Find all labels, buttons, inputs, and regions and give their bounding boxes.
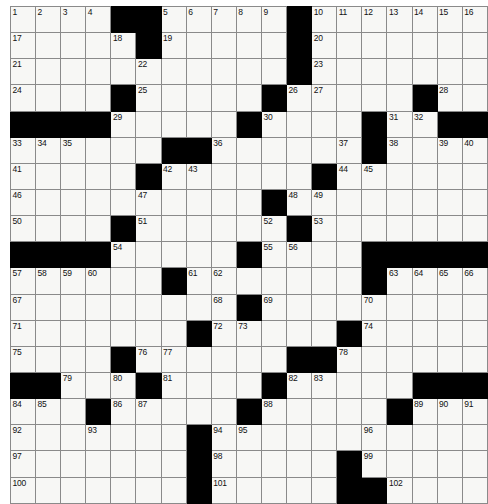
crossword-cell[interactable]: 18 xyxy=(111,33,136,59)
crossword-cell[interactable] xyxy=(111,137,136,163)
crossword-cell[interactable] xyxy=(86,59,111,85)
crossword-cell[interactable] xyxy=(312,320,337,346)
crossword-cell[interactable] xyxy=(36,33,61,59)
crossword-cell[interactable] xyxy=(211,111,236,137)
crossword-cell[interactable]: 82 xyxy=(287,372,312,398)
crossword-cell[interactable]: 35 xyxy=(61,137,86,163)
crossword-cell[interactable] xyxy=(337,33,362,59)
crossword-cell[interactable] xyxy=(287,111,312,137)
crossword-cell[interactable]: 17 xyxy=(11,33,36,59)
crossword-cell[interactable]: 42 xyxy=(161,163,186,189)
crossword-cell[interactable] xyxy=(61,189,86,215)
crossword-cell[interactable] xyxy=(186,216,211,242)
crossword-cell[interactable] xyxy=(287,163,312,189)
crossword-cell[interactable]: 6 xyxy=(186,7,211,33)
crossword-cell[interactable]: 90 xyxy=(437,399,462,425)
crossword-cell[interactable] xyxy=(437,294,462,320)
crossword-cell[interactable] xyxy=(312,268,337,294)
crossword-cell[interactable]: 43 xyxy=(186,163,211,189)
crossword-cell[interactable] xyxy=(36,189,61,215)
crossword-cell[interactable]: 11 xyxy=(337,7,362,33)
crossword-cell[interactable] xyxy=(387,346,412,372)
crossword-cell[interactable] xyxy=(261,425,286,451)
crossword-cell[interactable] xyxy=(161,242,186,268)
crossword-cell[interactable] xyxy=(362,216,387,242)
crossword-cell[interactable] xyxy=(261,451,286,477)
crossword-cell[interactable] xyxy=(161,320,186,346)
crossword-cell[interactable]: 94 xyxy=(211,425,236,451)
crossword-cell[interactable] xyxy=(236,372,261,398)
crossword-cell[interactable] xyxy=(161,189,186,215)
crossword-cell[interactable] xyxy=(86,85,111,111)
crossword-cell[interactable] xyxy=(161,85,186,111)
crossword-cell[interactable]: 44 xyxy=(337,163,362,189)
crossword-cell[interactable]: 88 xyxy=(261,399,286,425)
crossword-cell[interactable] xyxy=(136,111,161,137)
crossword-cell[interactable]: 37 xyxy=(337,137,362,163)
crossword-cell[interactable] xyxy=(111,163,136,189)
crossword-cell[interactable]: 39 xyxy=(437,137,462,163)
crossword-cell[interactable] xyxy=(312,425,337,451)
crossword-cell[interactable] xyxy=(362,399,387,425)
crossword-cell[interactable] xyxy=(312,399,337,425)
crossword-cell[interactable]: 52 xyxy=(261,216,286,242)
crossword-cell[interactable]: 57 xyxy=(11,268,36,294)
crossword-cell[interactable]: 28 xyxy=(437,85,462,111)
crossword-cell[interactable] xyxy=(412,33,437,59)
crossword-cell[interactable]: 1 xyxy=(11,7,36,33)
crossword-cell[interactable]: 36 xyxy=(211,137,236,163)
crossword-cell[interactable] xyxy=(36,425,61,451)
crossword-cell[interactable] xyxy=(462,294,487,320)
crossword-cell[interactable]: 73 xyxy=(236,320,261,346)
crossword-cell[interactable] xyxy=(287,425,312,451)
crossword-cell[interactable]: 102 xyxy=(387,477,412,503)
crossword-cell[interactable] xyxy=(337,59,362,85)
crossword-cell[interactable]: 92 xyxy=(11,425,36,451)
crossword-cell[interactable]: 3 xyxy=(61,7,86,33)
crossword-cell[interactable] xyxy=(186,85,211,111)
crossword-cell[interactable]: 68 xyxy=(211,294,236,320)
crossword-cell[interactable]: 72 xyxy=(211,320,236,346)
crossword-cell[interactable] xyxy=(362,59,387,85)
crossword-cell[interactable] xyxy=(61,59,86,85)
crossword-cell[interactable] xyxy=(136,294,161,320)
crossword-cell[interactable] xyxy=(61,216,86,242)
crossword-cell[interactable] xyxy=(61,425,86,451)
crossword-cell[interactable]: 58 xyxy=(36,268,61,294)
crossword-cell[interactable] xyxy=(111,59,136,85)
crossword-cell[interactable]: 30 xyxy=(261,111,286,137)
crossword-cell[interactable] xyxy=(161,59,186,85)
crossword-cell[interactable] xyxy=(186,111,211,137)
crossword-cell[interactable] xyxy=(136,451,161,477)
crossword-cell[interactable]: 97 xyxy=(11,451,36,477)
crossword-cell[interactable] xyxy=(211,59,236,85)
crossword-cell[interactable]: 63 xyxy=(387,268,412,294)
crossword-cell[interactable]: 65 xyxy=(437,268,462,294)
crossword-cell[interactable] xyxy=(161,477,186,503)
crossword-cell[interactable] xyxy=(111,451,136,477)
crossword-cell[interactable]: 45 xyxy=(362,163,387,189)
crossword-cell[interactable]: 93 xyxy=(86,425,111,451)
crossword-cell[interactable] xyxy=(236,268,261,294)
crossword-cell[interactable] xyxy=(136,477,161,503)
crossword-cell[interactable] xyxy=(287,399,312,425)
crossword-cell[interactable] xyxy=(236,59,261,85)
crossword-cell[interactable] xyxy=(337,242,362,268)
crossword-cell[interactable]: 79 xyxy=(61,372,86,398)
crossword-cell[interactable]: 59 xyxy=(61,268,86,294)
crossword-cell[interactable]: 89 xyxy=(412,399,437,425)
crossword-cell[interactable]: 26 xyxy=(287,85,312,111)
crossword-cell[interactable] xyxy=(236,216,261,242)
crossword-cell[interactable]: 38 xyxy=(387,137,412,163)
crossword-cell[interactable]: 98 xyxy=(211,451,236,477)
crossword-cell[interactable] xyxy=(412,425,437,451)
crossword-cell[interactable] xyxy=(36,216,61,242)
crossword-cell[interactable] xyxy=(387,189,412,215)
crossword-cell[interactable] xyxy=(312,451,337,477)
crossword-grid[interactable]: 1234567891011121314151617181920212223242… xyxy=(10,6,488,504)
crossword-cell[interactable] xyxy=(437,477,462,503)
crossword-cell[interactable]: 51 xyxy=(136,216,161,242)
crossword-cell[interactable]: 56 xyxy=(287,242,312,268)
crossword-cell[interactable] xyxy=(387,320,412,346)
crossword-cell[interactable] xyxy=(437,451,462,477)
